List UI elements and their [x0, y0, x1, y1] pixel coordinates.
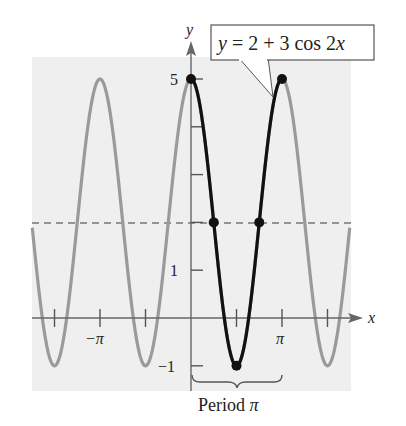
x-axis-label: x [367, 309, 375, 326]
period-label: Period π [198, 395, 260, 415]
key-point [209, 217, 219, 227]
y-axis-label: y [184, 21, 194, 39]
y-tick-label-neg1: −1 [158, 358, 175, 375]
key-point [232, 361, 242, 371]
key-point [254, 217, 264, 227]
y-tick-label-5: 5 [170, 71, 178, 88]
key-point [186, 74, 196, 84]
key-point [277, 74, 287, 84]
x-tick-label-pi: π [276, 330, 285, 347]
equation-label: y = 2 + 3 cos 2x [216, 32, 345, 55]
chart: y x 5 1 −1 −π π y = 2 + 3 cos 2x Period … [0, 0, 406, 426]
y-tick-label-1: 1 [170, 262, 178, 279]
x-tick-label-negpi: −π [85, 330, 105, 347]
